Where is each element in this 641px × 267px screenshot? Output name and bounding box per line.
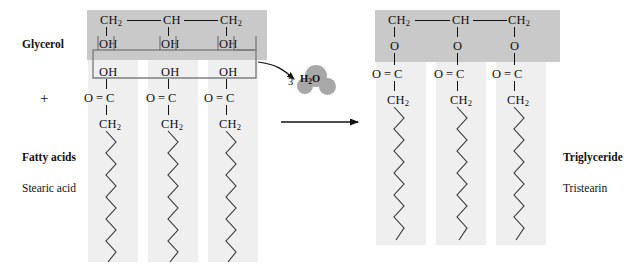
water-coefficient: 3	[288, 77, 293, 88]
water-formula-o: O	[312, 73, 320, 84]
hydrocarbon-chain-left-3	[226, 131, 236, 262]
hydrocarbon-chain-left-2	[168, 131, 178, 262]
water-removal-outline	[93, 36, 256, 78]
hydrocarbon-chain-right-1	[394, 107, 404, 240]
hydrocarbon-chain-right-2	[457, 107, 467, 240]
structure-lines-layer	[0, 0, 641, 267]
label-triglyceride: Triglyceride	[563, 152, 623, 164]
hydrocarbon-chain-right-3	[514, 107, 524, 240]
hydrocarbon-chain-left-1	[106, 131, 116, 262]
label-stearic-acid: Stearic acid	[22, 183, 76, 195]
label-tristearin: Tristearin	[563, 183, 607, 195]
water-formula-h: H	[300, 73, 308, 84]
reaction-diagram: CH2 CH CH2 OH OH OH OH OH OH O = C O = C…	[0, 0, 641, 267]
label-plus: +	[40, 91, 48, 106]
label-fatty-acids: Fatty acids	[22, 152, 76, 164]
label-glycerol: Glycerol	[22, 39, 64, 51]
water-formula: H2O	[300, 74, 320, 86]
water-hydrogen-sphere-2	[319, 78, 336, 95]
